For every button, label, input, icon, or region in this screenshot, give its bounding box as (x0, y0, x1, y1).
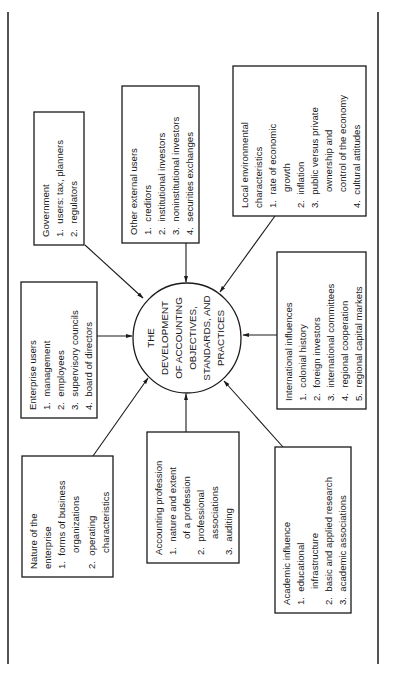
accounting-item-3: 3. auditing (223, 508, 234, 555)
local-item-3-cont-1: ownership and (323, 130, 334, 208)
government-box: Government 1. users: tax, planners 2. re… (34, 112, 84, 245)
enterprise-item-2: 2. employees (55, 350, 66, 410)
local-item-1-cont: growth (281, 163, 292, 208)
center-line-6: PRACTICES (215, 310, 226, 367)
academic-item-1: 1. educational (295, 543, 306, 605)
arrow-nature-of-enterprise (93, 378, 148, 456)
nature-item-1: 1. forms of business (56, 480, 67, 569)
other-external-item-4: 4. securities exchanges (184, 132, 195, 235)
government-item-1: 1. users: tax, planners (54, 140, 65, 237)
international-item-4: 4. regional cooperation (339, 301, 350, 401)
local-item-1: 1. rate of economic (267, 124, 278, 208)
nature-title: Nature of the (28, 514, 39, 569)
nature-item-2-cont: characteristics (100, 491, 111, 569)
other-external-item-3: 3. noninstitutional investors (170, 116, 181, 235)
academic-title: Academic influence (281, 522, 292, 605)
accounting-item-1: 1. nature and extent (167, 467, 178, 555)
government-item-2: 2. regulators (68, 181, 79, 237)
international-item-1: 1. colonial history (297, 324, 308, 401)
local-item-3: 3. public versus private (309, 107, 320, 208)
enterprise-item-3: 3. supervisory councils (69, 310, 80, 410)
local-item-3-cont-2: control of the economy (337, 95, 348, 208)
other-external-item-2: 2. institutional investors (156, 132, 167, 235)
accounting-profession-box: Accounting profession 1. nature and exte… (147, 432, 239, 563)
academic-item-2: 2. basic and applied research (323, 477, 334, 605)
nature-of-enterprise-box: Nature of the enterprise 1. forms of bus… (22, 456, 113, 577)
other-external-users-title: Other external users (128, 148, 139, 235)
other-external-users-box: Other external users 1. creditors 2. ins… (122, 86, 199, 243)
academic-influence-box: Academic influence 1. educational infras… (275, 447, 351, 613)
nature-title-2: enterprise (42, 526, 53, 569)
center-node: THE DEVELOPMENT OF ACCOUNTING OBJECTIVES… (133, 283, 241, 393)
international-title: International influences (283, 302, 294, 401)
accounting-item-2-cont: associations (209, 486, 220, 555)
enterprise-users-title: Enterprise users (27, 340, 38, 410)
enterprise-item-4: 4. board of directors (83, 322, 94, 410)
academic-item-3: 3. academic associations (337, 495, 348, 605)
center-line-5: STANDARDS, AND (201, 295, 212, 380)
accounting-item-1-cont: of a profession (181, 476, 192, 555)
nature-item-2: 2. operating (86, 516, 97, 569)
accounting-item-2: 2. professional (195, 490, 206, 555)
center-line-2: DEVELOPMENT (159, 301, 170, 375)
local-environmental-title-2: characteristics (253, 146, 264, 208)
international-influences-box: International influences 1. colonial his… (277, 252, 366, 409)
center-line-4: OBJECTIVES, (187, 306, 198, 370)
local-environmental-box: Local environmental characteristics 1. r… (233, 66, 366, 216)
center-line-3: OF ACCOUNTING (173, 297, 184, 379)
center-line-1: THE (145, 328, 156, 348)
international-item-5: 5. regional capital markets (353, 286, 364, 401)
accounting-influences-diagram: THE DEVELOPMENT OF ACCOUNTING OBJECTIVES… (0, 0, 402, 673)
nature-item-1-cont: organizations (70, 496, 81, 569)
local-item-4: 4. cultural attitudes (351, 125, 362, 208)
local-environmental-title: Local environmental (239, 122, 250, 208)
international-item-3: 3. international committees (325, 283, 336, 401)
other-external-item-1: 1. creditors (142, 185, 153, 235)
arrow-local-environmental (220, 216, 275, 292)
international-item-2: 2. foreign investors (311, 317, 322, 401)
local-item-2: 2. inflation (295, 162, 306, 208)
enterprise-item-1: 1. management (41, 340, 52, 410)
academic-item-1-cont: infrastructure (309, 533, 320, 605)
enterprise-users-box: Enterprise users 1. management 2. employ… (21, 282, 97, 418)
government-title: Government (40, 184, 51, 237)
accounting-profession-title: Accounting profession (153, 461, 164, 555)
